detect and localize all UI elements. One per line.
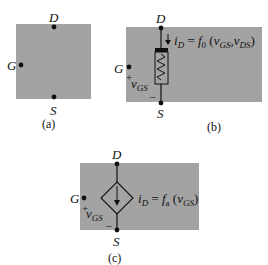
- variable-resistor-icon: [155, 28, 168, 103]
- drain-terminal-dot-c: [115, 162, 120, 167]
- source-label-c: S: [113, 235, 120, 248]
- drain-label-a: D: [49, 11, 58, 24]
- current-arrow-icon-b: [165, 34, 171, 45]
- equation-b: iD = f0 (vGS,vDS): [174, 34, 255, 50]
- source-terminal-dot-a: [52, 95, 57, 100]
- gate-label-b: G: [114, 62, 123, 75]
- gate-terminal-dot-c: [82, 196, 87, 201]
- drain-label-c: D: [112, 148, 121, 161]
- caption-c: (c): [108, 252, 121, 264]
- equation-c: iD = fa (vGS): [138, 192, 198, 208]
- vgs-minus-c: –: [106, 220, 112, 231]
- caption-b: (b): [207, 121, 221, 133]
- drain-label-b: D: [156, 12, 165, 25]
- gate-terminal-dot-b: [127, 65, 132, 70]
- vgs-label-c: vGS: [86, 207, 103, 223]
- drain-terminal-dot-a: [52, 25, 57, 30]
- gate-label-c: G: [70, 192, 79, 205]
- vgs-minus-b: –: [150, 91, 156, 102]
- gate-label-a: G: [7, 59, 16, 72]
- source-terminal-dot-c: [115, 228, 120, 233]
- source-label-a: S: [50, 104, 57, 117]
- drain-terminal-dot-b: [159, 26, 164, 31]
- source-terminal-dot-b: [159, 101, 164, 106]
- gate-terminal-dot-a: [19, 63, 24, 68]
- caption-a: (a): [42, 118, 55, 130]
- vgs-label-b: vGS: [131, 77, 148, 93]
- source-label-b: S: [157, 107, 164, 120]
